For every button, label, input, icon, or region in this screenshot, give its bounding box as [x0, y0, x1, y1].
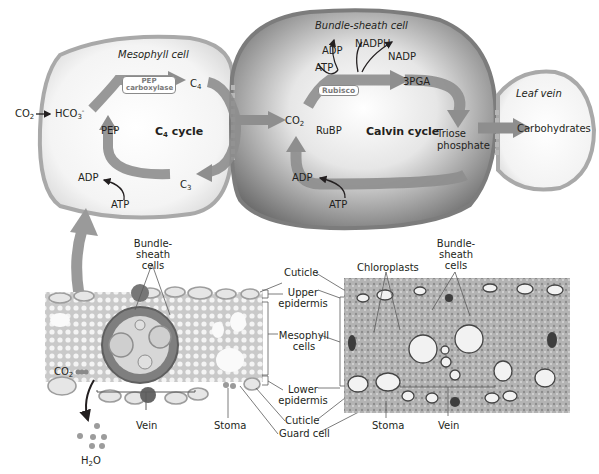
pep-carboxylase-enzyme: PEP carboxylase — [122, 76, 176, 94]
adp-label-bs-top: ADP — [322, 45, 343, 56]
co2-label-bs: CO2 — [285, 115, 304, 126]
bundle-sheath-cell-title: Bundle-sheath cell — [315, 20, 408, 31]
atp-label-meso: ATP — [111, 199, 129, 210]
label-line-1: Bundle- — [436, 238, 476, 249]
c4-cycle-label: C4 cycle — [155, 126, 203, 137]
atp-label-bs-top: ATP — [315, 62, 333, 73]
3pga-label: 3PGA — [403, 76, 430, 87]
label-line-2: cells — [276, 341, 332, 352]
enzyme-line-2: carboxylase — [126, 85, 172, 92]
lower-epidermis-label: Lower epidermis — [278, 384, 328, 406]
nadph-label: NADPH — [355, 38, 391, 49]
pep-label: PEP — [101, 125, 119, 136]
rubp-label: RuBP — [316, 125, 342, 136]
label-line-3: cells — [436, 260, 476, 271]
leaf-vein-title: Leaf vein — [516, 88, 562, 99]
phosphate-label: phosphate — [437, 140, 490, 151]
micro-vein-label: Vein — [438, 420, 459, 431]
triose-label: Triose — [437, 128, 466, 139]
upper-epidermis-label: Upper epidermis — [278, 287, 328, 309]
cuticle-bottom-label: Cuticle — [285, 415, 319, 426]
mesophyll-cell-title: Mesophyll cell — [118, 49, 189, 60]
co2-cross-label: CO2 — [54, 366, 73, 377]
label-line-2: sheath — [133, 249, 173, 260]
adp-label-bs-bottom: ADP — [292, 172, 313, 183]
label-line-1: Bundle- — [133, 238, 173, 249]
guard-cell-label: Guard cell — [279, 428, 330, 439]
rubisco-enzyme: Rubisco — [318, 85, 359, 96]
co2-label: CO2 — [15, 108, 34, 119]
label-line-2: epidermis — [278, 395, 328, 406]
calvin-cycle-label: Calvin cycle — [366, 126, 439, 137]
micro-stoma-label: Stoma — [372, 420, 404, 431]
adp-label-meso: ADP — [78, 172, 99, 183]
micro-bundle-sheath-label: Bundle- sheath cells — [436, 238, 476, 271]
c4-label: C4 — [190, 78, 201, 89]
label-line-1: Upper — [278, 287, 328, 298]
bundle-sheath-cells-label: Bundle- sheath cells — [133, 238, 173, 271]
atp-label-bs-bottom: ATP — [329, 199, 347, 210]
label-line-2: epidermis — [278, 298, 328, 309]
label-line-2: sheath — [436, 249, 476, 260]
vein-label: Vein — [136, 420, 157, 431]
stoma-label: Stoma — [214, 420, 246, 431]
hco3-label: HCO3- — [55, 108, 84, 119]
chloroplasts-label: Chloroplasts — [357, 262, 419, 273]
micrograph-image — [344, 272, 570, 418]
mesophyll-cells-label: Mesophyll cells — [276, 330, 332, 352]
label-line-3: cells — [133, 260, 173, 271]
c3-label: C3 — [180, 179, 191, 190]
cuticle-top-label: Cuticle — [284, 267, 318, 278]
nadp-label: NADP — [388, 51, 416, 62]
carbohydrates-label: Carbohydrates — [517, 123, 591, 134]
h2o-label: H2O — [81, 455, 101, 466]
label-line-1: Lower — [278, 384, 328, 395]
label-line-1: Mesophyll — [276, 330, 332, 341]
